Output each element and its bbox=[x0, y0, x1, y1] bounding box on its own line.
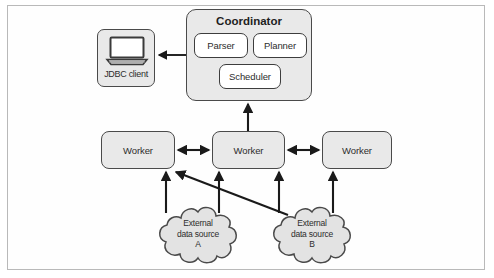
external-data-source-b-label: External data source B bbox=[269, 218, 355, 250]
parser-box[interactable]: Parser bbox=[194, 33, 248, 58]
external-data-source-a-label: External data source A bbox=[155, 218, 241, 250]
figure-diagram: Coordinator Parser Planner Scheduler JDB… bbox=[0, 0, 494, 278]
worker-center-label: Worker bbox=[234, 145, 264, 156]
coordinator-box[interactable]: Coordinator Parser Planner Scheduler bbox=[186, 9, 312, 101]
planner-box[interactable]: Planner bbox=[253, 33, 307, 58]
scheduler-box[interactable]: Scheduler bbox=[219, 64, 281, 89]
external-data-source-a[interactable]: External data source A bbox=[155, 204, 241, 266]
jdbc-client-box[interactable]: JDBC client bbox=[97, 29, 155, 87]
source-b-line1: External bbox=[269, 218, 355, 229]
scheduler-label: Scheduler bbox=[229, 71, 271, 82]
worker-right-label: Worker bbox=[342, 145, 372, 156]
worker-center-box[interactable]: Worker bbox=[212, 131, 285, 169]
source-a-line1: External bbox=[155, 218, 241, 229]
jdbc-client-label: JDBC client bbox=[98, 69, 154, 79]
worker-right-box[interactable]: Worker bbox=[322, 131, 392, 169]
worker-left-label: Worker bbox=[123, 145, 153, 156]
parser-label: Parser bbox=[207, 40, 234, 51]
laptop-icon bbox=[105, 36, 149, 66]
source-b-line3: B bbox=[269, 239, 355, 250]
coordinator-title: Coordinator bbox=[187, 15, 311, 27]
source-a-line2: data source bbox=[155, 229, 241, 240]
planner-label: Planner bbox=[264, 40, 296, 51]
source-a-line3: A bbox=[155, 239, 241, 250]
external-data-source-b[interactable]: External data source B bbox=[269, 204, 355, 266]
worker-left-box[interactable]: Worker bbox=[101, 131, 175, 169]
source-b-line2: data source bbox=[269, 229, 355, 240]
